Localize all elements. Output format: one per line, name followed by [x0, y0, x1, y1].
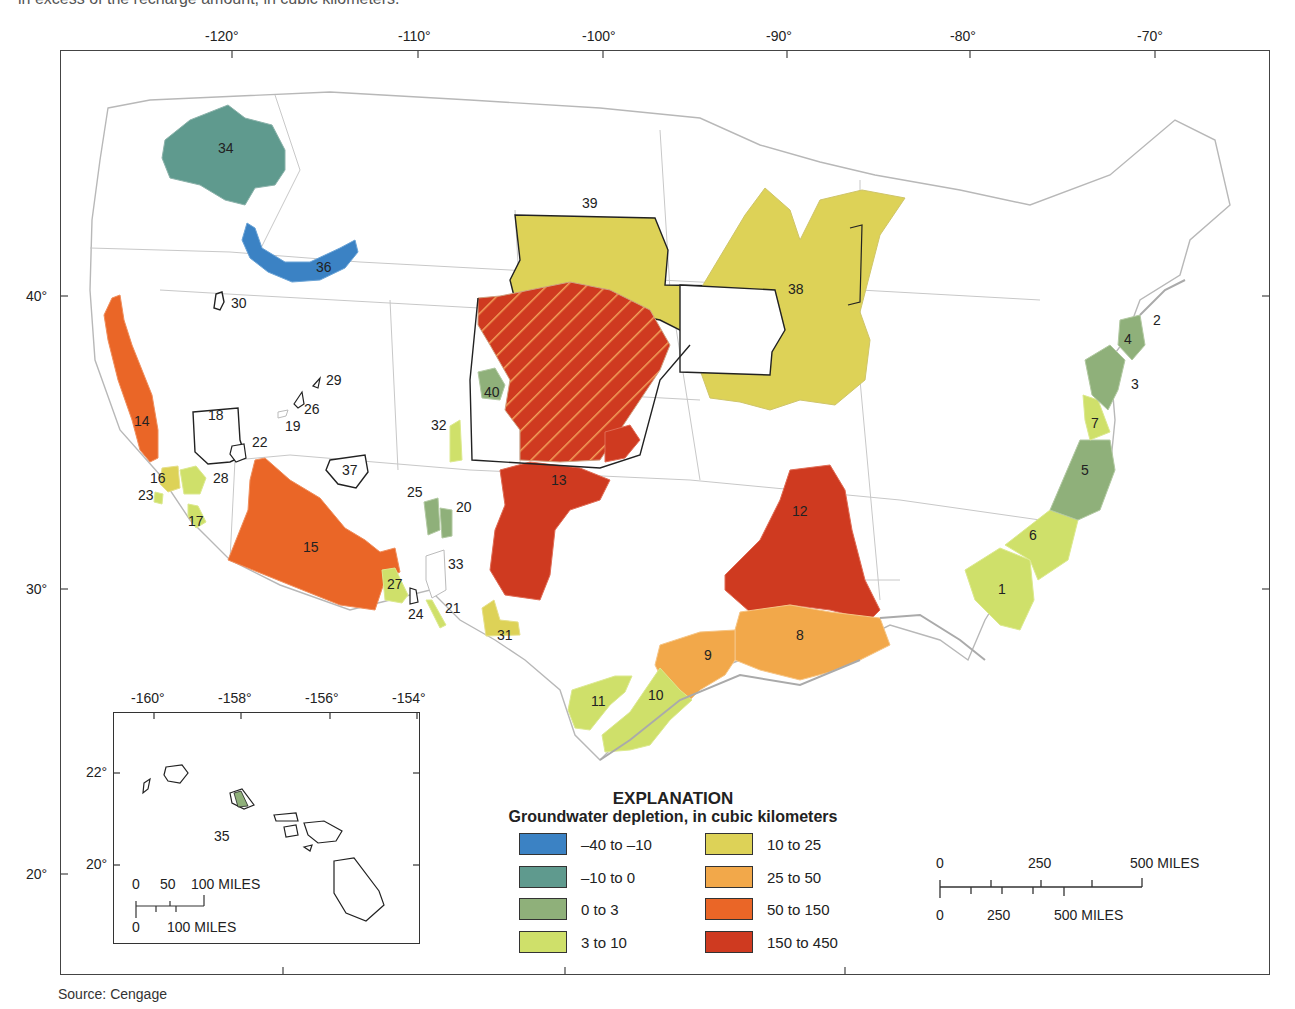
inset-ticks: [114, 713, 419, 865]
region-label-38: 38: [788, 281, 804, 297]
region-label-24: 24: [408, 606, 424, 622]
region-label-4: 4: [1124, 331, 1132, 347]
lanai-island: [284, 825, 298, 837]
scale-bottom-label: 0: [936, 907, 944, 923]
region-label-39: 39: [582, 195, 598, 211]
legend-swatch: [519, 898, 567, 920]
niihau-island: [143, 779, 150, 793]
legend-label: 3 to 10: [581, 934, 627, 951]
legend-swatch: [519, 866, 567, 888]
region-label-14: 14: [134, 413, 150, 429]
region-label-34: 34: [218, 140, 234, 156]
legend-swatch: [705, 866, 753, 888]
region-label-10: 10: [648, 687, 664, 703]
legend-item: –10 to 0: [519, 865, 635, 889]
hawaii-big-island: [334, 858, 384, 921]
legend-label: 25 to 50: [767, 869, 821, 886]
region-label-31: 31: [497, 627, 513, 643]
scale-bottom-label: 250: [987, 907, 1010, 923]
legend-swatch: [705, 931, 753, 953]
inset-scale-bottom-label: 100 MILES: [167, 919, 236, 935]
inset-longitude-tick-label: -154°: [392, 690, 426, 706]
legend-subtitle: Groundwater depletion, in cubic kilomete…: [473, 808, 873, 826]
region-iowa-outline: [680, 285, 785, 375]
legend-label: 0 to 3: [581, 901, 619, 918]
scale-bottom-label: 500 MILES: [1054, 907, 1123, 923]
inset-scale-top-label: 0: [132, 876, 140, 892]
region-label-37: 37: [342, 462, 358, 478]
legend-item: –40 to –10: [519, 832, 652, 856]
legend-item: 25 to 50: [705, 865, 821, 889]
region-label-6: 6: [1029, 527, 1037, 543]
region-label-22: 22: [252, 434, 268, 450]
inset-latitude-tick-label: 22°: [86, 764, 107, 780]
hawaii-inset: 35: [113, 712, 420, 944]
inset-scale-bottom-label: 0: [132, 919, 140, 935]
legend-swatch: [519, 931, 567, 953]
legend-label: 10 to 25: [767, 836, 821, 853]
region-label-23: 23: [138, 487, 154, 503]
legend-item: 50 to 150: [705, 897, 830, 921]
source-credit: Source: Cengage: [58, 986, 167, 1002]
region-21-area: [426, 600, 446, 628]
region-32-area: [450, 420, 462, 462]
legend-swatch: [519, 833, 567, 855]
region-label-12: 12: [792, 503, 808, 519]
inset-scale-top-label: 100 MILES: [191, 876, 260, 892]
inset-longitude-tick-label: -156°: [305, 690, 339, 706]
region-label-18: 18: [208, 407, 224, 423]
region-label-1: 1: [998, 581, 1006, 597]
region-label-20: 20: [456, 499, 472, 515]
region-label-9: 9: [704, 647, 712, 663]
legend-item: 10 to 25: [705, 832, 821, 856]
legend-item: 0 to 3: [519, 897, 619, 921]
kauai-island: [164, 765, 188, 783]
region-label-21: 21: [445, 600, 461, 616]
region-label-17: 17: [188, 513, 204, 529]
region-label-13: 13: [551, 472, 567, 488]
legend-title: EXPLANATION: [473, 790, 873, 808]
region-label-5: 5: [1081, 462, 1089, 478]
scale-top-label: 0: [936, 855, 944, 871]
inset-scale-bar: [136, 895, 204, 918]
inset-scale-top-label: 50: [160, 876, 176, 892]
legend-label: –40 to –10: [581, 836, 652, 853]
region-label-27: 27: [387, 576, 403, 592]
kahoolawe-island: [304, 845, 312, 851]
region-label-40: 40: [484, 384, 500, 400]
legend-swatch: [705, 898, 753, 920]
region-label-32: 32: [431, 417, 447, 433]
region-label-3: 3: [1131, 376, 1139, 392]
inset-latitude-tick-label: 20°: [86, 856, 107, 872]
region-label-33: 33: [448, 556, 464, 572]
legend-item: 3 to 10: [519, 930, 627, 954]
region-label-8: 8: [796, 627, 804, 643]
region-23-area: [154, 492, 163, 504]
region-label-19: 19: [285, 418, 301, 434]
scale-top-label: 500 MILES: [1130, 855, 1199, 871]
region-label-16: 16: [150, 470, 166, 486]
region-20-area: [440, 508, 452, 538]
inset-longitude-tick-label: -160°: [131, 690, 165, 706]
legend: EXPLANATION Groundwater depletion, in cu…: [473, 790, 873, 826]
region-label-35: 35: [214, 828, 230, 844]
inset-longitude-tick-label: -158°: [218, 690, 252, 706]
region-label-36: 36: [316, 259, 332, 275]
legend-label: 150 to 450: [767, 934, 838, 951]
legend-label: 50 to 150: [767, 901, 830, 918]
scale-bar: [935, 870, 1145, 910]
region-label-7: 7: [1091, 415, 1099, 431]
region-label-28: 28: [213, 470, 229, 486]
region-label-26: 26: [304, 401, 320, 417]
hawaii-inset-map: 35: [114, 713, 421, 945]
region-label-29: 29: [326, 372, 342, 388]
region-label-25: 25: [407, 484, 423, 500]
legend-item: 150 to 450: [705, 930, 838, 954]
legend-swatch: [705, 833, 753, 855]
region-label-30: 30: [231, 295, 247, 311]
legend-label: –10 to 0: [581, 869, 635, 886]
region-label-2: 2: [1153, 312, 1161, 328]
maui-island: [304, 821, 342, 843]
region-label-11: 11: [591, 693, 606, 709]
region-8-area: [735, 605, 890, 680]
